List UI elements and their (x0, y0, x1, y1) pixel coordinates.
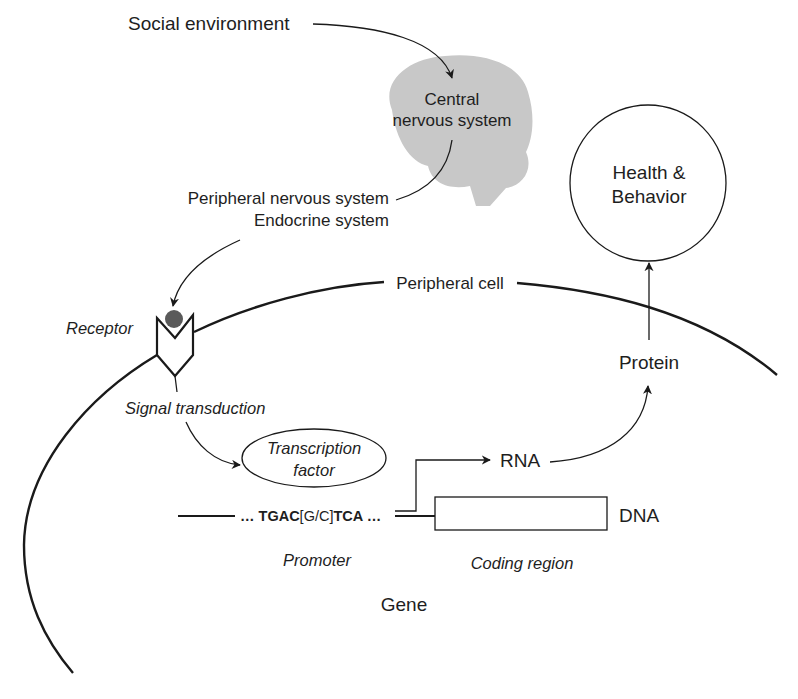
protein-label: Protein (619, 352, 679, 373)
arrow-rna-to-protein (550, 386, 648, 462)
arrow-signal-to-tf (186, 422, 240, 465)
diagram-canvas: Social environment Central nervous syste… (0, 0, 798, 699)
endocrine-label: Endocrine system (254, 211, 389, 230)
health-label-line1: Health & (613, 162, 686, 183)
gene-label: Gene (381, 594, 427, 615)
pns-label: Peripheral nervous system (188, 189, 389, 208)
coding-region-label: Coding region (471, 554, 574, 572)
brain-icon (389, 55, 532, 206)
arrow-promoter-to-rna (395, 460, 490, 511)
sequence-tail: TCA … (333, 508, 381, 524)
receptor-label: Receptor (66, 319, 134, 337)
social-environment-label: Social environment (128, 13, 290, 34)
cell-membrane-top (194, 282, 384, 332)
promoter-sequence: … TGAC[G/C]TCA … (240, 508, 381, 524)
dna-label: DNA (619, 505, 659, 526)
health-behavior-circle (570, 105, 726, 261)
arrow-endocrine-to-receptor (173, 240, 240, 306)
tf-label-line2: factor (293, 461, 336, 479)
cns-label-line1: Central (425, 90, 480, 109)
tf-label-line1: Transcription (267, 439, 361, 457)
coding-region-box (435, 497, 607, 530)
peripheral-cell-label: Peripheral cell (396, 274, 504, 293)
signal-transduction-label: Signal transduction (125, 399, 265, 417)
ligand-dot-icon (165, 310, 183, 328)
rna-label: RNA (500, 450, 540, 471)
brain-shape (389, 55, 532, 206)
receptor (157, 310, 193, 392)
health-label-line2: Behavior (612, 186, 688, 207)
sequence-variable: [G/C] (300, 508, 334, 524)
cns-label-line2: nervous system (392, 111, 511, 130)
sequence-lead: … TGAC (240, 508, 300, 524)
promoter-label: Promoter (283, 551, 352, 569)
